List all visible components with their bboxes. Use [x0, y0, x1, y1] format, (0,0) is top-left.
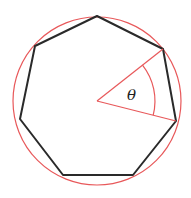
- heptagon-diagram: θ: [0, 0, 191, 198]
- radius-line-2: [97, 101, 176, 121]
- theta-label: θ: [127, 86, 136, 104]
- angle-arc: [143, 65, 155, 115]
- heptagon: [20, 16, 176, 175]
